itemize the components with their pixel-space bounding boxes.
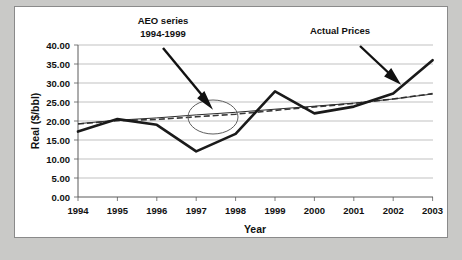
aeo-annotation-arrow bbox=[163, 48, 210, 106]
y-tick-label: 30.00 bbox=[46, 78, 70, 89]
x-tick-label: 2000 bbox=[304, 205, 325, 216]
x-tick-labels: 1994 1995 1996 1997 1998 1999 2000 2001 … bbox=[67, 205, 443, 216]
y-tick-label: 25.00 bbox=[46, 97, 70, 108]
y-tick-label: 10.00 bbox=[46, 154, 70, 165]
chart-panel: 40.00 35.00 30.00 25.00 20.00 15.00 10.0… bbox=[14, 6, 448, 238]
x-tick-label: 1999 bbox=[264, 205, 285, 216]
x-tick-label: 1997 bbox=[186, 205, 207, 216]
y-axis-title: Real ($/bbl) bbox=[29, 93, 41, 150]
aeo-annotation-line2: 1994-1999 bbox=[140, 28, 185, 39]
x-tick-label: 1996 bbox=[146, 205, 167, 216]
y-tick-labels: 40.00 35.00 30.00 25.00 20.00 15.00 10.0… bbox=[46, 40, 70, 203]
x-tick-label: 2001 bbox=[343, 205, 365, 216]
x-tick-label: 1998 bbox=[225, 205, 246, 216]
aeo-annotation-line1: AEO series bbox=[138, 15, 189, 26]
x-tick-label: 1994 bbox=[67, 205, 89, 216]
x-axis-title: Year bbox=[244, 223, 266, 235]
x-tick-marks bbox=[78, 197, 433, 201]
x-tick-label: 2003 bbox=[422, 205, 443, 216]
y-tick-label: 5.00 bbox=[52, 173, 71, 184]
y-tick-label: 40.00 bbox=[46, 40, 70, 51]
y-tick-marks bbox=[74, 45, 78, 197]
series-actual-prices bbox=[78, 60, 433, 151]
actual-prices-annotation-label: Actual Prices bbox=[310, 25, 370, 36]
y-tick-label: 0.00 bbox=[52, 192, 71, 203]
aeo-annotation-label: AEO series 1994-1999 bbox=[138, 15, 189, 39]
y-tick-label: 20.00 bbox=[46, 116, 70, 127]
y-tick-label: 15.00 bbox=[46, 135, 70, 146]
chart-plot-area: 40.00 35.00 30.00 25.00 20.00 15.00 10.0… bbox=[15, 7, 447, 237]
y-tick-label: 35.00 bbox=[46, 59, 70, 70]
x-tick-label: 2002 bbox=[383, 205, 404, 216]
x-tick-label: 1995 bbox=[107, 205, 129, 216]
line-chart-svg: 40.00 35.00 30.00 25.00 20.00 15.00 10.0… bbox=[15, 7, 447, 237]
